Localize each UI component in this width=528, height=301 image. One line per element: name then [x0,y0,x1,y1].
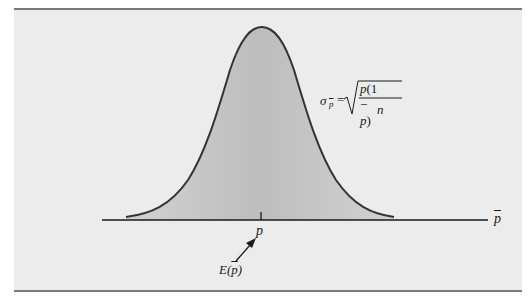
expected-value-arrow [236,244,251,261]
curve-area [126,27,394,220]
formula-denominator: n [377,102,384,118]
formula-sigma: σ [320,93,326,109]
arrowhead-icon [246,238,256,248]
formula-equals: = [337,92,344,108]
normal-curve-figure [0,0,528,301]
expected-value-prefix: E( [219,262,231,277]
expected-value-label: E(p) [219,263,242,276]
numerator-close: ) [367,113,371,128]
formula-subscript: p [329,99,334,109]
expected-value-suffix: ) [238,262,242,277]
axis-label-p-bar: p [494,212,501,226]
mean-label-p: p [256,224,263,238]
formula-numerator: p(1 − p) [360,81,377,129]
